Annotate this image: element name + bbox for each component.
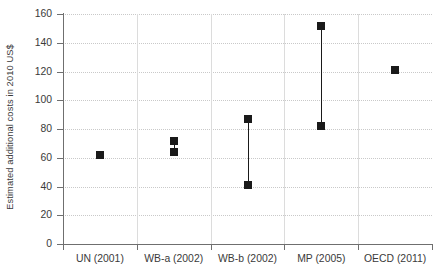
category-separator bbox=[211, 14, 212, 244]
x-tick-mark bbox=[137, 244, 138, 250]
x-tick-label-2: WB-b (2002) bbox=[211, 253, 285, 265]
data-point-marker bbox=[244, 115, 252, 123]
x-tick-mark bbox=[211, 244, 212, 250]
y-tick-label: 120 bbox=[12, 67, 52, 77]
category-separator bbox=[358, 14, 359, 244]
gridline bbox=[63, 43, 432, 44]
gridline bbox=[63, 14, 432, 15]
y-tick-label: 20 bbox=[12, 210, 52, 220]
y-tick-mark bbox=[57, 43, 63, 44]
y-axis-line bbox=[63, 13, 64, 245]
y-tick-mark bbox=[57, 187, 63, 188]
range-connector bbox=[321, 26, 322, 127]
y-tick-label: 100 bbox=[12, 95, 52, 105]
x-tick-mark bbox=[432, 244, 433, 250]
y-tick-label: 80 bbox=[12, 124, 52, 134]
gridline bbox=[63, 100, 432, 101]
y-tick-label: 160 bbox=[12, 9, 52, 19]
category-separator bbox=[284, 14, 285, 244]
x-tick-label-4: OECD (2011) bbox=[358, 253, 432, 265]
y-tick-label: 0 bbox=[12, 239, 52, 249]
y-tick-mark bbox=[57, 72, 63, 73]
x-tick-mark bbox=[284, 244, 285, 250]
x-tick-mark bbox=[358, 244, 359, 250]
data-point-marker bbox=[170, 148, 178, 156]
y-tick-mark bbox=[57, 215, 63, 216]
x-tick-label-3: MP (2005) bbox=[284, 253, 358, 265]
data-point-marker bbox=[170, 137, 178, 145]
gridline bbox=[63, 72, 432, 73]
y-tick-label: 140 bbox=[12, 38, 52, 48]
data-point-marker bbox=[317, 22, 325, 30]
data-point-marker bbox=[391, 66, 399, 74]
x-axis-line bbox=[63, 244, 433, 245]
y-tick-mark bbox=[57, 100, 63, 101]
y-tick-mark bbox=[57, 158, 63, 159]
x-tick-label-1: WB-a (2002) bbox=[137, 253, 211, 265]
chart-container: Estimated additional costs in 2010 US$ 0… bbox=[0, 0, 435, 278]
data-point-marker bbox=[317, 122, 325, 130]
category-separator bbox=[137, 14, 138, 244]
y-tick-mark bbox=[57, 14, 63, 15]
data-point-marker bbox=[244, 181, 252, 189]
x-tick-mark bbox=[63, 244, 64, 250]
y-tick-mark bbox=[57, 129, 63, 130]
gridline bbox=[63, 215, 432, 216]
range-connector bbox=[248, 119, 249, 185]
data-point-marker bbox=[96, 151, 104, 159]
y-tick-label: 40 bbox=[12, 182, 52, 192]
y-tick-label: 60 bbox=[12, 153, 52, 163]
x-tick-label-0: UN (2001) bbox=[63, 253, 137, 265]
